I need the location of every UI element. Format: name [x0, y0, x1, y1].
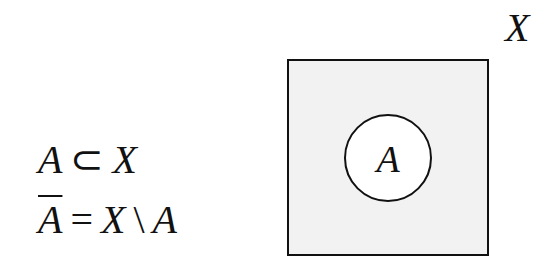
subset-label: A	[373, 138, 400, 180]
venn-diagram: A	[0, 0, 558, 271]
universe-label: X	[505, 8, 529, 48]
